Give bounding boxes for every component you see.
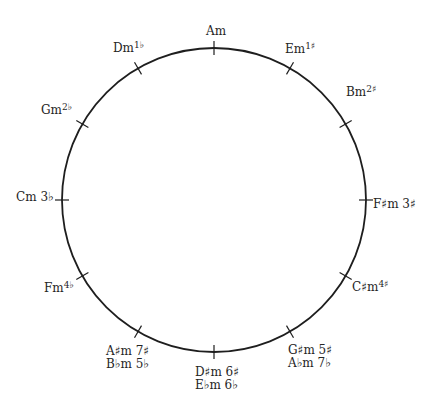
key-name-flat: B♭m 5♭ — [106, 358, 149, 371]
key-name: Gm — [41, 103, 62, 117]
tick-fm — [76, 273, 88, 280]
key-label-gsm: G♯m 5♯ A♭m 7♭ — [288, 344, 332, 370]
key-signature: 4♯ — [378, 279, 388, 289]
key-signature: 1♯ — [305, 41, 315, 51]
key-label-dsm: D♯m 6♯ E♭m 6♭ — [195, 366, 239, 392]
tick-em — [287, 62, 294, 74]
key-signature: 1♭ — [134, 40, 144, 50]
tick-gsm — [287, 326, 294, 338]
key-label-em: Em1♯ — [285, 43, 315, 56]
key-label-asm: A♯m 7♯ B♭m 5♭ — [106, 345, 149, 371]
key-label-gm: Gm2♭ — [41, 104, 72, 117]
tick-gm — [76, 121, 88, 128]
key-signature: 2♯ — [366, 84, 376, 94]
tick-asm — [135, 326, 142, 338]
key-label-csm: C♯m4♯ — [352, 281, 388, 294]
tick-csm — [340, 273, 352, 280]
key-label-fm: Fm4♭ — [44, 282, 74, 295]
key-label-fsm: F♯m 3♯ — [373, 198, 416, 211]
key-name: F♯m 3♯ — [373, 197, 416, 211]
key-name: C♯m — [352, 280, 378, 294]
key-name: Em — [285, 42, 305, 56]
key-name: Fm — [44, 281, 64, 295]
key-signature: 4♭ — [64, 280, 74, 290]
tick-bm — [340, 121, 352, 128]
circle-outline — [62, 48, 366, 352]
key-signature: 2♭ — [62, 102, 72, 112]
key-label-am: Am — [206, 25, 226, 38]
tick-dm — [135, 62, 142, 74]
key-name-flat: A♭m 7♭ — [288, 357, 332, 370]
tick-marks — [55, 41, 373, 359]
key-name-flat: E♭m 6♭ — [195, 379, 239, 392]
key-label-dm: Dm1♭ — [113, 42, 144, 55]
key-label-bm: Bm2♯ — [346, 86, 376, 99]
key-circle — [0, 0, 427, 407]
key-name: Cm 3♭ — [16, 190, 54, 204]
key-label-cm: Cm 3♭ — [16, 191, 54, 204]
key-name: Dm — [113, 41, 134, 55]
key-name: Bm — [346, 85, 366, 99]
key-name: Am — [206, 24, 226, 38]
